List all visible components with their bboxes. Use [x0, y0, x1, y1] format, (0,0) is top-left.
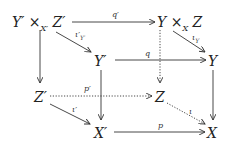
- label-p: p: [158, 122, 163, 130]
- node-y-prime: Y′: [94, 54, 106, 68]
- node-x-prime: X′: [94, 126, 107, 140]
- node-z: Z: [155, 90, 165, 104]
- node-subscript: X′: [41, 24, 49, 33]
- node-text: Y ×: [157, 14, 182, 30]
- node-z-prime: Z′: [34, 90, 47, 104]
- label-p-prime: p′: [84, 85, 91, 93]
- node-text: Y′ ×: [12, 14, 41, 30]
- node-pullback-top: Y′ ×X′ Z′: [12, 15, 65, 33]
- label-iota-prime-yprime: ι′Y′: [75, 31, 85, 41]
- label-iota-prime: ι′: [72, 106, 77, 114]
- node-text: Z: [188, 14, 202, 30]
- label-iota-y: ιY: [192, 34, 199, 44]
- label-q-prime: q′: [112, 11, 119, 19]
- node-x: X: [207, 126, 217, 140]
- arrow-iota-prime-yprime: [56, 32, 91, 52]
- label-iota: ι: [189, 108, 192, 116]
- node-fiber-product: Y ×X Z: [157, 15, 202, 33]
- node-text: Z′: [48, 14, 65, 30]
- arrow-iota-prime: [50, 104, 90, 124]
- arrow-iota-y: [173, 31, 205, 52]
- node-y: Y: [208, 54, 217, 68]
- arrow-iota: [167, 103, 205, 124]
- commutative-cube-diagram: Y′ ×X′ Z′ Y ×X Z Y′ Y Z′ Z X′ X q′ ι′Y′ …: [0, 0, 239, 147]
- label-q: q: [145, 50, 150, 58]
